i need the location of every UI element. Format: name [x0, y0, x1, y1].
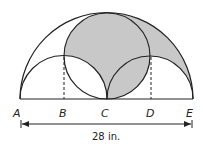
label-e: E	[186, 107, 193, 120]
shaded-region-right-crescent	[20, 12, 193, 99]
label-a: A	[12, 107, 21, 120]
label-d: D	[146, 107, 154, 120]
dimension-arrow	[21, 120, 192, 128]
label-b: B	[59, 107, 67, 120]
semicircle-diagram: A B C D E 28 in.	[0, 0, 203, 146]
label-c: C	[101, 107, 109, 120]
dimension-label: 28 in.	[92, 131, 120, 142]
